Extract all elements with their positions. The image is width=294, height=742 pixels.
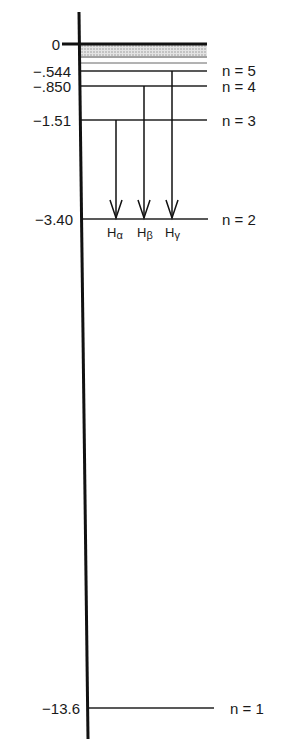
- level-label-n5: n = 5: [222, 63, 256, 78]
- level-label-n3: n = 3: [222, 113, 256, 128]
- level-label-n4: n = 4: [222, 79, 256, 94]
- energy-label-n4: −.850: [11, 79, 71, 94]
- transition-h-gamma: [166, 71, 178, 218]
- energy-label-zero: 0: [0, 37, 60, 52]
- energy-axis: [79, 12, 88, 739]
- transition-h-alpha: [110, 120, 122, 218]
- energy-label-n5: −.544: [11, 64, 71, 79]
- transition-label-h-alpha: Hα: [107, 226, 123, 242]
- energy-label-n3: −1.51: [11, 113, 71, 128]
- transition-h-beta: [138, 86, 150, 218]
- transition-label-h-gamma: Hγ: [165, 226, 180, 242]
- continuum-band: [80, 45, 207, 56]
- energy-label-n2: −3.40: [13, 212, 73, 227]
- energy-label-n1: −13.6: [20, 701, 80, 716]
- transition-label-h-beta: Hβ: [137, 226, 153, 242]
- level-label-n2: n = 2: [222, 212, 256, 227]
- level-label-n1: n = 1: [230, 701, 264, 716]
